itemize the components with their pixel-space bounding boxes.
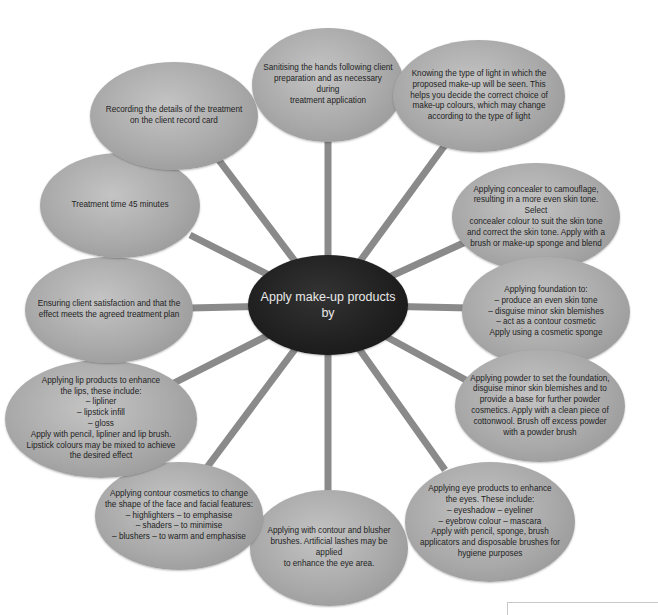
node-contour: Applying contour cosmetics to change the… xyxy=(95,462,263,570)
node-powder: Applying powder to set the foundation, d… xyxy=(455,350,625,462)
node-label: Knowing the type of light in which the p… xyxy=(410,69,547,123)
node-label: Applying lip products to enhance the lip… xyxy=(27,376,176,463)
node-label: Applying concealer to camouflage, result… xyxy=(462,185,610,250)
node-label: Applying eye products to enhance the eye… xyxy=(420,484,560,560)
node-label: Sanitising the hands following client pr… xyxy=(262,63,394,106)
center-label: Apply make-up products by xyxy=(261,289,396,322)
center-node: Apply make-up products by xyxy=(248,255,408,355)
node-label: Applying foundation to: – produce an eve… xyxy=(488,285,604,339)
node-light: Knowing the type of light in which the p… xyxy=(393,40,565,152)
node-concealer: Applying concealer to camouflage, result… xyxy=(452,163,620,271)
node-label: Recording the details of the treatment o… xyxy=(106,105,243,127)
node-label: Applying with contour and blusher brushe… xyxy=(258,526,400,569)
node-label: Treatment time 45 minutes xyxy=(71,200,168,211)
node-brushes: Applying with contour and blusher brushe… xyxy=(250,490,408,606)
node-recording: Recording the details of the treatment o… xyxy=(90,62,258,170)
node-eyes: Applying eye products to enhance the eye… xyxy=(405,462,575,582)
node-lips: Applying lip products to enhance the lip… xyxy=(5,360,197,478)
node-sanitising: Sanitising the hands following client pr… xyxy=(252,28,404,142)
node-label: Ensuring client satisfaction and that th… xyxy=(38,299,180,321)
node-satisfaction: Ensuring client satisfaction and that th… xyxy=(25,257,193,363)
page-corner-frame xyxy=(507,602,658,615)
node-label: Applying powder to set the foundation, d… xyxy=(470,374,609,439)
node-label: Applying contour cosmetics to change the… xyxy=(105,489,253,543)
